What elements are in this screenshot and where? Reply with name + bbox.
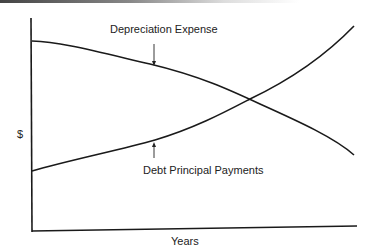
chart-canvas xyxy=(0,0,374,252)
depreciation-curve xyxy=(32,41,354,155)
debt-arrow-icon xyxy=(152,142,156,158)
debt-principal-label: Debt Principal Payments xyxy=(143,164,263,176)
y-axis-label: $ xyxy=(17,128,23,140)
x-axis xyxy=(32,226,357,231)
y-axis xyxy=(31,18,32,232)
depreciation-arrow-icon xyxy=(152,44,156,66)
x-axis-label: Years xyxy=(171,235,199,247)
depreciation-label: Depreciation Expense xyxy=(110,23,218,35)
